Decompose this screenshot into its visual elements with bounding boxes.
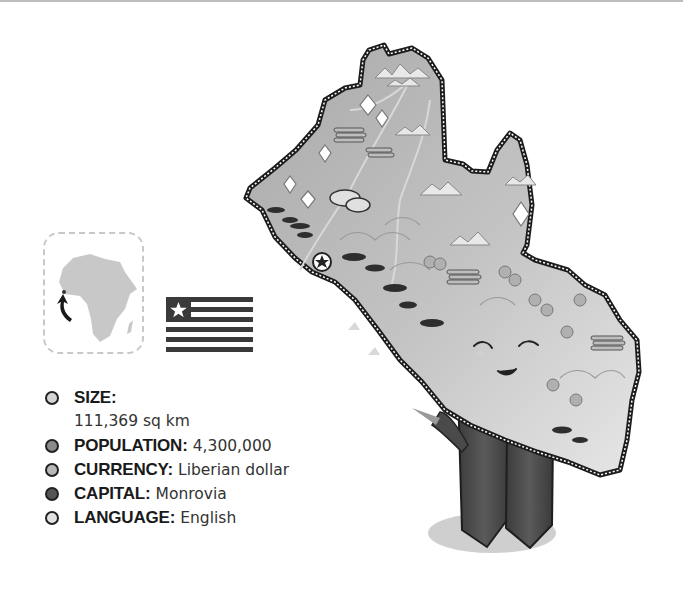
- fact-value: English: [180, 509, 236, 527]
- fact-label: LANGUAGE:: [74, 508, 175, 527]
- arrow-pointer-icon: [57, 294, 72, 322]
- fact-value: 111,369 sq km: [74, 409, 190, 433]
- fact-value: 4,300,000: [193, 437, 272, 455]
- bullet-icon: [45, 463, 59, 477]
- bullet-icon: [45, 511, 59, 525]
- capital-star-icon: [313, 253, 331, 271]
- bullet-icon: [45, 487, 59, 501]
- bullet-icon: [45, 439, 59, 453]
- fact-label: CAPITAL:: [74, 484, 150, 503]
- fact-label: SIZE:: [74, 386, 116, 410]
- liberia-marker: [62, 290, 66, 294]
- bullet-icon: [45, 391, 59, 405]
- fact-label: POPULATION:: [74, 436, 188, 455]
- africa-continent-icon: [59, 254, 137, 342]
- liberia-flag-icon: [166, 297, 253, 352]
- fact-value: Monrovia: [156, 485, 227, 503]
- africa-locator-map: [43, 232, 144, 354]
- fact-value: Liberian dollar: [178, 461, 289, 479]
- fact-label: CURRENCY:: [74, 460, 173, 479]
